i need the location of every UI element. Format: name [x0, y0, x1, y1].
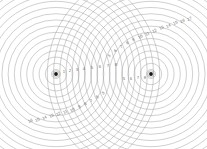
interference-diagram: 1234567856785678910111213141516171615141…: [0, 0, 207, 149]
source-right-dot: [149, 72, 153, 76]
wave-pattern-svg: 1234567856785678910111213141516171615141…: [0, 0, 207, 149]
source-left-dot: [54, 72, 58, 76]
